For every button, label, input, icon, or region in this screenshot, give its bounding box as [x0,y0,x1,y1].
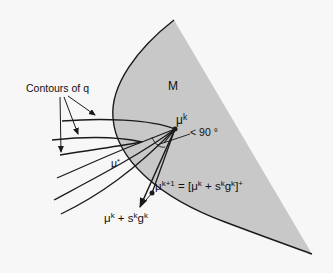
point-mu-k1 [150,191,155,196]
contours-label: Contours of q [26,83,89,94]
step-sup3: k [144,211,148,220]
mu-star-label: μ* [111,158,120,169]
step-label: μk + skgk [104,213,148,225]
diagram-canvas: M Contours of q < 90 ° μk μ* μk+1 = [μk … [0,0,333,273]
step-base: μ [104,212,111,224]
mu-k1-rest: = [μ [175,180,198,192]
step-mid: + s [115,212,134,224]
mu-k-label: μk [176,114,187,126]
diagram-graphics [0,0,333,273]
mu-star-sup: * [117,157,120,166]
mu-k1-sup: k+1 [162,179,175,188]
mu-k-sup: k [183,112,187,122]
mu-k1-rest-sup4: + [238,179,243,188]
region-m-label: M [168,80,178,92]
point-mu-k [173,127,178,132]
contour-pointers [60,96,95,152]
angle-label: < 90 ° [190,127,218,138]
mu-k1-base: μ [155,180,162,192]
mu-k1-label: μk+1 = [μk + skgk]+ [155,181,243,193]
mu-k1-rest2: + s [202,180,221,192]
mu-k-base: μ [176,113,183,127]
